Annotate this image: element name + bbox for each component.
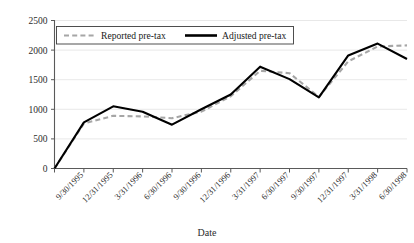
y-tick-labels-group: 05001000150020002500 bbox=[29, 16, 48, 174]
x-tick-label: 6/30/1997 bbox=[259, 169, 291, 201]
x-tick-label: 3/31/1997 bbox=[230, 169, 262, 201]
chart-legend: Reported pre-tax Adjusted pre-tax bbox=[57, 27, 294, 45]
chart-container: 05001000150020002500 9/30/199512/31/1995… bbox=[0, 0, 414, 243]
y-tick-label: 2000 bbox=[29, 46, 48, 56]
y-tick-label: 1500 bbox=[29, 75, 48, 85]
y-tick-label: 1000 bbox=[29, 105, 48, 115]
x-tick-label: 12/31/1997 bbox=[315, 169, 350, 204]
series-line-adjusted-pre-tax bbox=[55, 44, 408, 169]
x-tick-label: 3/31/1998 bbox=[347, 170, 379, 202]
series-line-reported-pre-tax bbox=[55, 45, 408, 168]
x-tick-label: 6/30/1996 bbox=[142, 169, 174, 201]
y-tick-label: 500 bbox=[33, 134, 48, 144]
y-tick-label: 0 bbox=[43, 164, 48, 174]
x-axis-title: Date bbox=[198, 227, 217, 238]
x-tick-labels-group: 9/30/199512/31/19953/31/19966/30/19969/3… bbox=[54, 169, 409, 204]
y-tick-label: 2500 bbox=[29, 16, 48, 26]
x-tick-label: 12/31/1996 bbox=[197, 169, 232, 204]
x-tick-label: 3/31/1996 bbox=[112, 169, 144, 201]
legend-label-adjusted: Adjusted pre-tax bbox=[222, 30, 286, 41]
legend-label-reported: Reported pre-tax bbox=[101, 30, 166, 41]
x-tick-label: 6/30/1998 bbox=[377, 170, 409, 202]
line-chart: 05001000150020002500 9/30/199512/31/1995… bbox=[0, 0, 414, 243]
x-tick-label: 12/31/1995 bbox=[80, 170, 115, 205]
